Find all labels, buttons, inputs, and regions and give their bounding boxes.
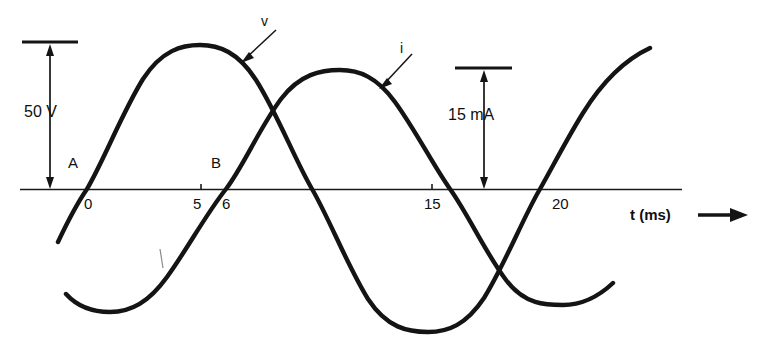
stray-mark (160, 249, 163, 268)
curve-label-v: v (261, 14, 268, 28)
scale-bar-current-arrow-up (480, 70, 488, 82)
curve-v (58, 45, 650, 332)
tick-label-15: 15 (424, 196, 441, 211)
waveform-figure: 50 V 15 mA v i A B 0 5 6 15 20 t (ms) (0, 0, 760, 346)
curve-label-i: i (400, 41, 403, 55)
leader-arrow-v (241, 30, 276, 63)
tick-label-6: 6 (222, 196, 230, 211)
time-axis-direction-arrow (698, 208, 748, 222)
axis-label-time: t (ms) (630, 207, 671, 222)
waveform-plot (0, 0, 760, 346)
scale-bar-current (455, 68, 512, 189)
tick-label-0: 0 (84, 196, 92, 211)
scale-label-voltage: 50 V (24, 104, 57, 120)
scale-bar-current-arrow-down (480, 177, 488, 189)
point-label-a: A (68, 155, 78, 170)
tick-label-5: 5 (193, 196, 201, 211)
point-label-b: B (211, 155, 221, 170)
curve-i (66, 70, 613, 312)
tick-label-20: 20 (552, 196, 569, 211)
scale-bar-voltage-arrow-down (46, 177, 54, 189)
leader-arrow-i (379, 54, 412, 89)
scale-bar-voltage-arrow-up (46, 44, 54, 56)
scale-label-current: 15 mA (448, 107, 494, 123)
